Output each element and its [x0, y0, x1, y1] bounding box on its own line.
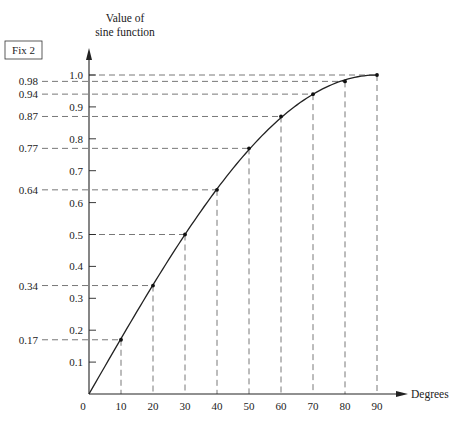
data-point: [247, 146, 251, 150]
sine-chart: 0.10.20.30.40.50.60.70.80.91.00.170.340.…: [0, 0, 458, 421]
x-tick-label: 40: [212, 400, 224, 412]
y-tick-label: 0.6: [69, 197, 83, 209]
x-tick-label: 0: [80, 400, 86, 412]
y-value-label: 0.94: [19, 88, 39, 100]
y-tick-label: 0.9: [69, 101, 83, 113]
y-tick-label: 1.0: [69, 69, 83, 81]
y-tick-label: 0.2: [69, 324, 83, 336]
x-tick-label: 90: [372, 400, 384, 412]
x-tick-label: 20: [148, 400, 160, 412]
x-axis-arrow-icon: [396, 391, 408, 397]
tick-labels: 0.10.20.30.40.50.60.70.80.91.00.170.340.…: [19, 69, 383, 412]
x-tick-label: 70: [308, 400, 320, 412]
y-value-label: 0.17: [19, 334, 39, 346]
y-tick-label: 0.4: [69, 260, 83, 272]
y-tick-label: 0.3: [69, 292, 83, 304]
y-axis-arrow-icon: [86, 48, 92, 60]
y-value-label: 0.77: [19, 142, 39, 154]
x-tick-label: 10: [116, 400, 128, 412]
data-point: [119, 338, 123, 342]
y-axis-label-line2: sine function: [95, 26, 155, 38]
data-point: [215, 188, 219, 192]
axes: [86, 48, 408, 397]
data-point: [279, 115, 283, 119]
x-tick-label: 60: [276, 400, 288, 412]
data-point: [151, 284, 155, 288]
y-value-label: 0.34: [19, 280, 39, 292]
x-tick-label: 80: [340, 400, 352, 412]
y-tick-label: 0.7: [69, 165, 83, 177]
y-tick-label: 0.5: [69, 229, 83, 241]
y-value-label: 0.98: [19, 75, 39, 87]
data-point: [375, 73, 379, 77]
y-tick-label: 0.8: [69, 133, 83, 145]
y-value-label: 0.87: [19, 110, 39, 122]
x-axis-label: Degrees: [411, 388, 449, 401]
sine-curve: [89, 73, 379, 394]
y-tick-label: 0.1: [69, 356, 83, 368]
figure-label: Fix 2: [12, 44, 35, 56]
data-point: [183, 233, 187, 237]
y-value-label: 0.64: [19, 184, 39, 196]
x-tick-label: 50: [244, 400, 256, 412]
y-axis-label-line1: Value of: [106, 12, 145, 24]
data-point: [343, 79, 347, 83]
data-point: [311, 92, 315, 96]
x-tick-label: 30: [180, 400, 192, 412]
